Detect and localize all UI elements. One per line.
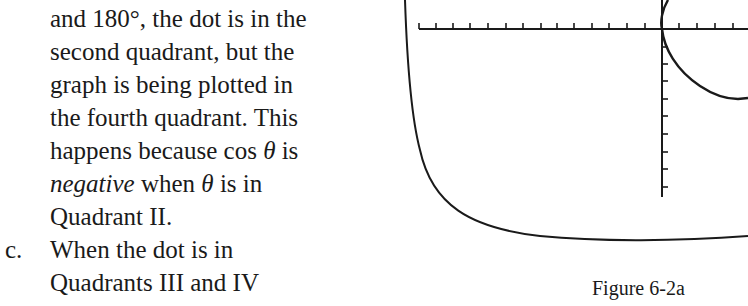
figure-caption: Figure 6-2a — [592, 276, 685, 300]
figure-6-2a: Figure 6-2a — [0, 0, 748, 306]
polar-curve — [661, 0, 748, 99]
calculator-screen-graph — [0, 0, 748, 306]
screen-frame — [405, 0, 748, 240]
